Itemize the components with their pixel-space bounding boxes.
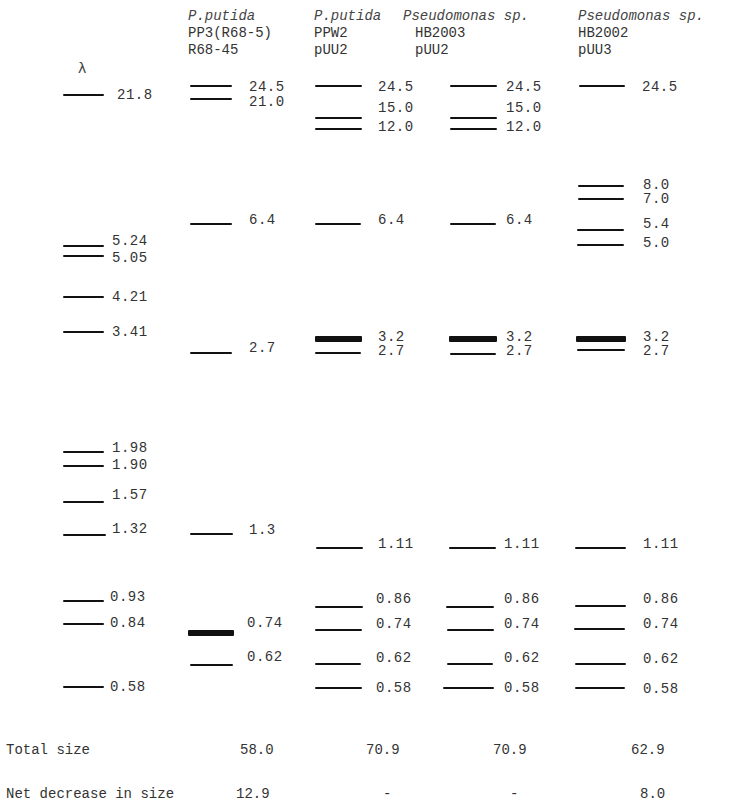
band [190, 98, 232, 100]
band [315, 629, 362, 631]
net-decrease-value: 12.9 [236, 786, 270, 802]
band-thick [188, 630, 234, 636]
band [63, 465, 104, 467]
band-size-label: 15.0 [506, 101, 542, 115]
band [450, 223, 496, 225]
lane-header-hb2002: Pseudomonas sp. HB2002 pUU3 [578, 8, 704, 59]
band [575, 687, 625, 689]
band-size-label: 0.62 [376, 651, 412, 665]
net-decrease-value: - [510, 786, 518, 802]
band [450, 128, 497, 130]
total-size-value: 70.9 [493, 742, 527, 758]
band [575, 663, 626, 665]
band [63, 600, 104, 602]
restriction-fragment-diagram: λ P.putida PP3(R68-5) R68-45 P.putida PP… [0, 0, 746, 811]
band-size-label: 1.57 [112, 488, 148, 502]
band-thick [449, 336, 497, 342]
band [315, 687, 362, 689]
band-size-label: 0.58 [110, 680, 146, 694]
band-size-label: 0.58 [504, 681, 540, 695]
strain-name: PP3(R68-5) [188, 25, 272, 42]
total-size-label: Total size [6, 742, 90, 758]
total-size-value: 62.9 [631, 742, 665, 758]
band [450, 117, 497, 119]
band [574, 628, 625, 630]
total-size-value: 70.9 [366, 742, 400, 758]
band [443, 687, 494, 689]
band [316, 547, 363, 549]
net-decrease-value: 8.0 [640, 786, 665, 802]
plasmid-name: pUU3 [578, 42, 704, 59]
band [575, 605, 626, 607]
band [190, 533, 233, 535]
total-size-value: 58.0 [240, 742, 274, 758]
band-size-label: 2.7 [506, 344, 533, 358]
band [315, 663, 361, 665]
band-size-label: 0.62 [247, 650, 283, 664]
band [315, 128, 362, 130]
species-name: P.putida [188, 8, 272, 25]
band-size-label: 4.21 [112, 290, 148, 304]
band [579, 85, 625, 87]
band-size-label: 1.11 [643, 537, 679, 551]
band-size-label: 0.86 [504, 592, 540, 606]
band [63, 255, 104, 257]
band-size-label: 0.62 [643, 652, 679, 666]
species-name: Pseudomonas sp. [578, 8, 704, 25]
band-size-label: 5.4 [643, 217, 670, 231]
band [190, 85, 232, 87]
lambda-marker-heading: λ [78, 60, 86, 76]
band [449, 547, 496, 549]
band [63, 451, 104, 453]
band-size-label: 0.74 [247, 616, 283, 630]
band [450, 353, 496, 355]
band [315, 606, 363, 608]
band [63, 296, 104, 298]
band-size-label: 24.5 [249, 80, 285, 94]
species-name: Pseudomonas sp. [403, 8, 529, 25]
band-size-label: 5.05 [112, 251, 148, 265]
band-size-label: 0.86 [643, 592, 679, 606]
band [578, 185, 624, 187]
band [63, 623, 104, 625]
band-size-label: 1.90 [112, 458, 148, 472]
band-size-label: 21.0 [249, 95, 285, 109]
band-size-label: 0.62 [504, 651, 540, 665]
plasmid-name: pUU2 [403, 42, 529, 59]
band [575, 547, 626, 549]
band-size-label: 1.11 [504, 537, 540, 551]
band-size-label: 0.74 [376, 617, 412, 631]
band-size-label: 12.0 [506, 120, 542, 134]
band-size-label: 1.98 [112, 441, 148, 455]
band [578, 198, 624, 200]
band-size-label: 24.5 [378, 80, 414, 94]
band-size-label: 6.4 [506, 213, 533, 227]
plasmid-name: pUU2 [314, 42, 381, 59]
band [315, 352, 361, 354]
band-size-label: 1.11 [378, 537, 414, 551]
lane-header-ppw2: P.putida PPW2 pUU2 [314, 8, 381, 59]
band-size-label: 8.0 [643, 178, 670, 192]
band [63, 245, 104, 247]
band [577, 244, 624, 246]
band-size-label: 0.58 [376, 681, 412, 695]
band-size-label: 3.2 [643, 330, 670, 344]
band-size-label: 3.2 [378, 330, 405, 344]
strain-name: HB2003 [403, 25, 529, 42]
band-size-label: 2.7 [249, 341, 276, 355]
band-size-label: 7.0 [643, 192, 670, 206]
band-size-label: 0.58 [643, 682, 679, 696]
band [447, 629, 494, 631]
band-size-label: 24.5 [642, 80, 678, 94]
net-decrease-label: Net decrease in size [6, 786, 174, 802]
band [63, 534, 106, 536]
band [190, 664, 233, 666]
band-size-label: 5.0 [643, 236, 670, 250]
band [446, 606, 494, 608]
plasmid-name: R68-45 [188, 42, 272, 59]
band-size-label: 0.86 [376, 592, 412, 606]
net-decrease-value: - [383, 786, 391, 802]
strain-name: PPW2 [314, 25, 381, 42]
band-size-label: 6.4 [249, 213, 276, 227]
band-size-label: 12.0 [378, 120, 414, 134]
